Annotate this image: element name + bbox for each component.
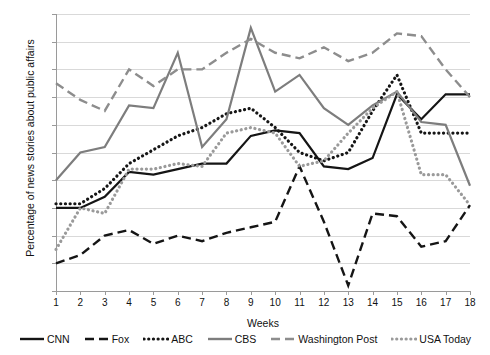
x-tick-mark bbox=[105, 291, 106, 295]
legend-label: CBS bbox=[235, 334, 257, 345]
legend-item-usa-today[interactable]: USA Today bbox=[391, 333, 471, 345]
x-tick-label: 7 bbox=[199, 297, 205, 308]
x-tick-mark bbox=[251, 291, 252, 295]
x-tick-mark bbox=[421, 291, 422, 295]
series-line-usa-today bbox=[56, 92, 470, 250]
x-tick-mark bbox=[300, 291, 301, 295]
x-tick-mark bbox=[324, 291, 325, 295]
chart-legend: CNNFoxABCCBSWashington PostUSA Today bbox=[0, 333, 490, 345]
x-tick-label: 5 bbox=[151, 297, 157, 308]
legend-swatch-dotted-icon bbox=[391, 333, 417, 345]
x-tick-mark bbox=[446, 291, 447, 295]
x-tick-label: 8 bbox=[224, 297, 230, 308]
legend-swatch-dotted-icon bbox=[143, 333, 169, 345]
x-tick-mark bbox=[348, 291, 349, 295]
x-tick-label: 17 bbox=[440, 297, 451, 308]
x-tick-mark bbox=[470, 291, 471, 295]
x-tick-label: 12 bbox=[318, 297, 329, 308]
legend-item-fox[interactable]: Fox bbox=[84, 333, 130, 345]
x-tick-mark bbox=[397, 291, 398, 295]
legend-item-cnn[interactable]: CNN bbox=[19, 333, 70, 345]
x-tick-label: 3 bbox=[102, 297, 108, 308]
x-tick-mark bbox=[202, 291, 203, 295]
x-tick-label: 14 bbox=[367, 297, 378, 308]
x-tick-label: 1 bbox=[53, 297, 59, 308]
x-tick-mark bbox=[153, 291, 154, 295]
legend-item-abc[interactable]: ABC bbox=[143, 333, 193, 345]
x-tick-label: 9 bbox=[248, 297, 254, 308]
x-tick-mark bbox=[129, 291, 130, 295]
y-axis-title: Percentage of news stories about public … bbox=[24, 3, 36, 293]
legend-label: CNN bbox=[47, 334, 70, 345]
series-line-washington-post bbox=[56, 33, 470, 111]
series-line-cbs bbox=[56, 28, 470, 186]
legend-label: Fox bbox=[112, 334, 130, 345]
x-tick-label: 16 bbox=[416, 297, 427, 308]
x-axis-title: Weeks bbox=[56, 317, 470, 329]
x-tick-mark bbox=[56, 291, 57, 295]
x-tick-label: 4 bbox=[126, 297, 132, 308]
legend-label: USA Today bbox=[419, 334, 471, 345]
series-lines bbox=[56, 14, 470, 291]
x-tick-mark bbox=[178, 291, 179, 295]
x-tick-mark bbox=[275, 291, 276, 295]
x-tick-mark bbox=[373, 291, 374, 295]
gridline bbox=[56, 291, 470, 292]
x-tick-label: 10 bbox=[270, 297, 281, 308]
legend-label: ABC bbox=[171, 334, 193, 345]
legend-swatch-dashed-icon bbox=[270, 333, 296, 345]
x-tick-label: 15 bbox=[391, 297, 402, 308]
x-tick-mark bbox=[80, 291, 81, 295]
x-tick-label: 13 bbox=[343, 297, 354, 308]
legend-swatch-dashed-icon bbox=[84, 333, 110, 345]
x-tick-mark bbox=[226, 291, 227, 295]
x-tick-label: 11 bbox=[294, 297, 304, 308]
plot-area: 0%10%20%30%40%50%60%70%80%90%100% 123456… bbox=[56, 14, 470, 291]
legend-swatch-solid-icon bbox=[19, 333, 45, 345]
x-tick-label: 18 bbox=[464, 297, 475, 308]
legend-item-washington-post[interactable]: Washington Post bbox=[270, 333, 377, 345]
legend-label: Washington Post bbox=[298, 334, 377, 345]
legend-swatch-solid-icon bbox=[207, 333, 233, 345]
chart-figure: Percentage of news stories about public … bbox=[0, 0, 490, 355]
x-tick-label: 2 bbox=[78, 297, 84, 308]
x-tick-label: 6 bbox=[175, 297, 181, 308]
legend-item-cbs[interactable]: CBS bbox=[207, 333, 257, 345]
